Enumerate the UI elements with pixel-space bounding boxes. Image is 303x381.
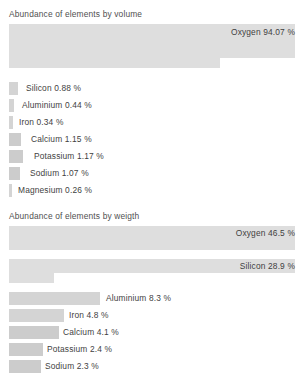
bar-label-aluminium-weight: Aluminium 8.3 %	[106, 292, 171, 305]
band-gap	[0, 283, 303, 292]
bar-iron-volume	[9, 116, 13, 129]
bar-label-potassium-weight: Potassium 2.4 %	[47, 343, 112, 356]
bar-sodium-weight	[9, 360, 41, 373]
bar-row-sodium-volume: Sodium 1.07 %	[0, 167, 303, 180]
bar-label-sodium-volume: Sodium 1.07 %	[30, 167, 89, 180]
bar-label-magnesium-volume: Magnesium 0.26 %	[18, 184, 92, 197]
bar-label-iron-weight: Iron 4.8 %	[69, 309, 109, 322]
bar-segment	[9, 45, 295, 52]
bar-segment	[9, 58, 220, 68]
bar-row-potassium-weight: Potassium 2.4 %	[0, 343, 303, 356]
bar-segment	[9, 239, 295, 250]
bar-row-aluminium-weight: Aluminium 8.3 %	[0, 292, 303, 305]
bar-row-aluminium-volume: Aluminium 0.44 %	[0, 99, 303, 112]
chart-separator	[0, 197, 303, 211]
bar-row-silicon-volume: Silicon 0.88 %	[0, 82, 303, 95]
bar-potassium-volume	[9, 150, 23, 163]
bar-calcium-volume	[9, 133, 21, 146]
bar-sodium-volume	[9, 167, 20, 180]
bar-aluminium-weight	[9, 292, 100, 305]
chart-volume-title: Abundance of elements by volume	[0, 9, 303, 20]
bar-row-calcium-weight: Calcium 4.1 %	[0, 326, 303, 339]
band-gap	[0, 68, 303, 82]
bar-row-sodium-weight: Sodium 2.3 %	[0, 360, 303, 373]
bar-label-aluminium-volume: Aluminium 0.44 %	[22, 99, 92, 112]
bar-label-potassium-volume: Potassium 1.17 %	[34, 150, 104, 163]
oxygen-weight-band: Oxygen 46.5 %	[0, 226, 303, 250]
bar-label-oxygen-volume: Oxygen 94.07 %	[231, 26, 295, 39]
infographic-page: Abundance of elements by volume Oxygen 9…	[0, 0, 303, 381]
bar-silicon-volume	[9, 82, 18, 95]
silicon-weight-band: Silicon 28.9 %	[0, 259, 303, 283]
bar-row-potassium-volume: Potassium 1.17 %	[0, 150, 303, 163]
bar-row-magnesium-volume: Magnesium 0.26 %	[0, 184, 303, 197]
bar-label-iron-volume: Iron 0.34 %	[19, 116, 63, 129]
bar-row-iron-weight: Iron 4.8 %	[0, 309, 303, 322]
chart-weight-title: Abundance of elements by weigth	[0, 211, 303, 222]
bar-potassium-weight	[9, 343, 43, 356]
chart-abundance-by-weight: Abundance of elements by weigth Oxygen 4…	[0, 211, 303, 373]
bar-magnesium-volume	[9, 184, 12, 197]
bar-row-iron-volume: Iron 0.34 %	[0, 116, 303, 129]
bar-aluminium-volume	[9, 99, 14, 112]
bar-label-sodium-weight: Sodium 2.3 %	[45, 360, 99, 373]
bar-calcium-weight	[9, 326, 59, 339]
bar-label-calcium-volume: Calcium 1.15 %	[31, 133, 92, 146]
bar-label-silicon-weight: Silicon 28.9 %	[240, 260, 295, 273]
bar-iron-weight	[9, 309, 64, 322]
bar-label-silicon-volume: Silicon 0.88 %	[26, 82, 81, 95]
bar-label-calcium-weight: Calcium 4.1 %	[63, 326, 119, 339]
top-spacer	[0, 0, 303, 9]
bar-row-calcium-volume: Calcium 1.15 %	[0, 133, 303, 146]
band-gap	[0, 250, 303, 259]
chart-abundance-by-volume: Abundance of elements by volume Oxygen 9…	[0, 0, 303, 197]
bar-segment	[9, 273, 54, 283]
oxygen-volume-band: Oxygen 94.07 %	[0, 24, 303, 68]
bar-label-oxygen-weight: Oxygen 46.5 %	[236, 227, 295, 240]
